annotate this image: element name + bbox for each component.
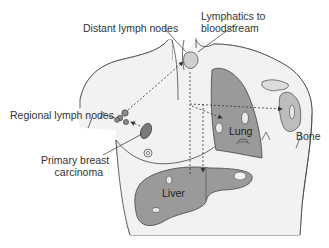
- distant-lymph-node: [184, 52, 198, 69]
- label-lymphatics-line2: bloodstream: [201, 23, 259, 34]
- label-regional-lymph-nodes: Regional lymph nodes: [10, 110, 114, 121]
- label-lymphatics-line1: Lymphatics to: [201, 11, 265, 22]
- metastasis-diagram: [0, 0, 329, 248]
- label-primary-line1: Primary breast: [41, 155, 103, 166]
- label-liver: Liver: [162, 188, 185, 199]
- label-bone: Bone: [296, 131, 321, 142]
- label-distant-lymph-nodes: Distant lymph nodes: [83, 23, 178, 34]
- label-primary-line2: carcinoma: [41, 167, 103, 178]
- label-lung: Lung: [229, 126, 252, 137]
